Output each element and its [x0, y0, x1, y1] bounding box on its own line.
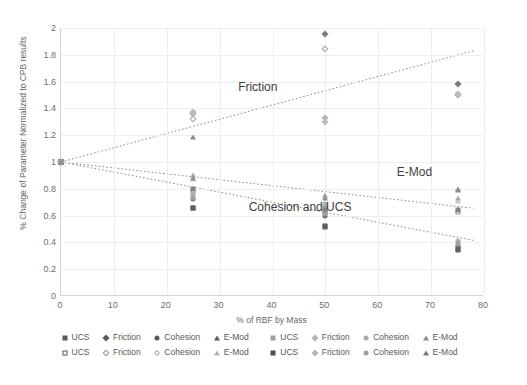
- data-point-square: [455, 208, 460, 213]
- gridline-vertical: [220, 28, 221, 295]
- x-axis-tick-label: 20: [146, 301, 186, 310]
- x-axis-tick-label: 30: [199, 301, 239, 310]
- data-point-diamond: [322, 45, 329, 52]
- square-marker-icon: [269, 333, 278, 342]
- legend-item-label: Friction: [113, 348, 141, 357]
- x-axis-tick-labels: 01020304050607080: [60, 301, 483, 315]
- square-marker-icon: [60, 333, 69, 342]
- y-axis-tick-label: 1.6: [2, 77, 56, 86]
- legend-item-label: E-Mod: [433, 333, 458, 342]
- x-axis-tick-label: 10: [93, 301, 133, 310]
- circle-marker-icon: [362, 348, 371, 357]
- data-point-triangle: [190, 135, 196, 140]
- y-axis-tick-label: 0.2: [2, 265, 56, 274]
- x-axis-tick-label: 50: [304, 301, 344, 310]
- legend-row-1: UCSFrictionCohesionE-ModUCSFrictionCohes…: [60, 330, 483, 345]
- gridline-vertical: [378, 28, 379, 295]
- legend-item[interactable]: Friction: [310, 348, 349, 357]
- data-point-triangle: [58, 160, 64, 165]
- data-point-circle: [191, 195, 196, 200]
- y-axis-tick-label: 0.6: [2, 211, 56, 220]
- trendline: [61, 51, 473, 162]
- triangle-marker-icon: [421, 348, 430, 357]
- gridline-vertical: [114, 28, 115, 295]
- legend-item[interactable]: UCS: [60, 333, 89, 342]
- circle-marker-icon: [153, 333, 162, 342]
- triangle-marker-icon: [421, 333, 430, 342]
- legend-item[interactable]: Friction: [101, 348, 140, 357]
- legend-item[interactable]: UCS: [269, 348, 298, 357]
- triangle-marker-icon: [212, 333, 221, 342]
- y-axis-tick-label: 1.8: [2, 50, 56, 59]
- legend-item-label: UCS: [280, 333, 298, 342]
- y-axis-tick-label: 0.4: [2, 238, 56, 247]
- legend-item[interactable]: E-Mod: [421, 333, 458, 342]
- x-axis-title: % of RBF by Mass: [60, 315, 483, 325]
- legend-item[interactable]: Cohesion: [362, 348, 409, 357]
- gridline-vertical: [167, 28, 168, 295]
- data-point-triangle: [455, 195, 461, 200]
- x-axis-tick-label: 40: [252, 301, 292, 310]
- series-annotation: Cohesion and UCS: [249, 200, 352, 214]
- data-point-diamond: [322, 30, 329, 37]
- gridline-vertical: [431, 28, 432, 295]
- circle-marker-icon: [153, 348, 162, 357]
- plot-area: FrictionE-ModCohesion and UCS: [60, 28, 483, 296]
- chart-legend: UCSFrictionCohesionE-ModUCSFrictionCohes…: [60, 330, 483, 360]
- legend-item-label: Friction: [322, 333, 350, 342]
- legend-item-label: Cohesion: [373, 348, 409, 357]
- series-annotation: E-Mod: [397, 165, 432, 179]
- legend-item-label: E-Mod: [433, 348, 458, 357]
- triangle-marker-icon: [212, 348, 221, 357]
- legend-item-label: Cohesion: [164, 348, 200, 357]
- square-marker-icon: [269, 348, 278, 357]
- gridline-vertical: [273, 28, 274, 295]
- legend-item-label: UCS: [72, 348, 90, 357]
- data-point-square: [191, 205, 196, 210]
- legend-item[interactable]: E-Mod: [421, 348, 458, 357]
- legend-item[interactable]: Cohesion: [153, 333, 200, 342]
- data-point-circle: [455, 242, 460, 247]
- data-point-square: [455, 247, 460, 252]
- y-axis-tick-labels: 00.20.40.60.811.21.41.61.82: [0, 28, 56, 296]
- legend-item-label: E-Mod: [224, 348, 249, 357]
- legend-item[interactable]: UCS: [269, 333, 298, 342]
- y-axis-tick-label: 1: [2, 158, 56, 167]
- data-point-diamond: [322, 118, 329, 125]
- gridline-vertical: [484, 28, 485, 295]
- legend-item[interactable]: E-Mod: [212, 333, 249, 342]
- legend-item[interactable]: Cohesion: [153, 348, 200, 357]
- legend-item-label: Friction: [113, 333, 141, 342]
- data-point-square: [191, 186, 196, 191]
- legend-item[interactable]: Friction: [101, 333, 140, 342]
- legend-item-label: UCS: [72, 333, 90, 342]
- data-point-square: [323, 224, 328, 229]
- legend-item-label: UCS: [280, 348, 298, 357]
- legend-item[interactable]: Cohesion: [362, 333, 409, 342]
- x-axis-tick-label: 80: [463, 301, 503, 310]
- data-point-triangle: [190, 176, 196, 181]
- x-axis-tick-label: 60: [357, 301, 397, 310]
- legend-item-label: Friction: [322, 348, 350, 357]
- legend-item[interactable]: UCS: [60, 348, 89, 357]
- diamond-marker-icon: [310, 348, 319, 357]
- legend-row-2: UCSFrictionCohesionE-ModUCSFrictionCohes…: [60, 345, 483, 360]
- legend-item[interactable]: E-Mod: [212, 348, 249, 357]
- data-point-triangle: [455, 186, 461, 191]
- x-axis-tick-label: 70: [410, 301, 450, 310]
- chart-container: % Change of Parameter Normalized to CPB …: [0, 0, 527, 385]
- y-axis-tick-label: 1.2: [2, 131, 56, 140]
- gridline-vertical: [325, 28, 326, 295]
- diamond-marker-icon: [101, 348, 110, 357]
- x-axis-tick-label: 0: [40, 301, 80, 310]
- y-axis-tick-label: 2: [2, 24, 56, 33]
- legend-item-label: E-Mod: [224, 333, 249, 342]
- y-axis-tick-label: 0: [2, 292, 56, 301]
- legend-item-label: Cohesion: [373, 333, 409, 342]
- diamond-marker-icon: [101, 333, 110, 342]
- square-marker-icon: [60, 348, 69, 357]
- legend-item-label: Cohesion: [164, 333, 200, 342]
- series-annotation: Friction: [238, 80, 277, 94]
- y-axis-tick-label: 1.4: [2, 104, 56, 113]
- legend-item[interactable]: Friction: [310, 333, 349, 342]
